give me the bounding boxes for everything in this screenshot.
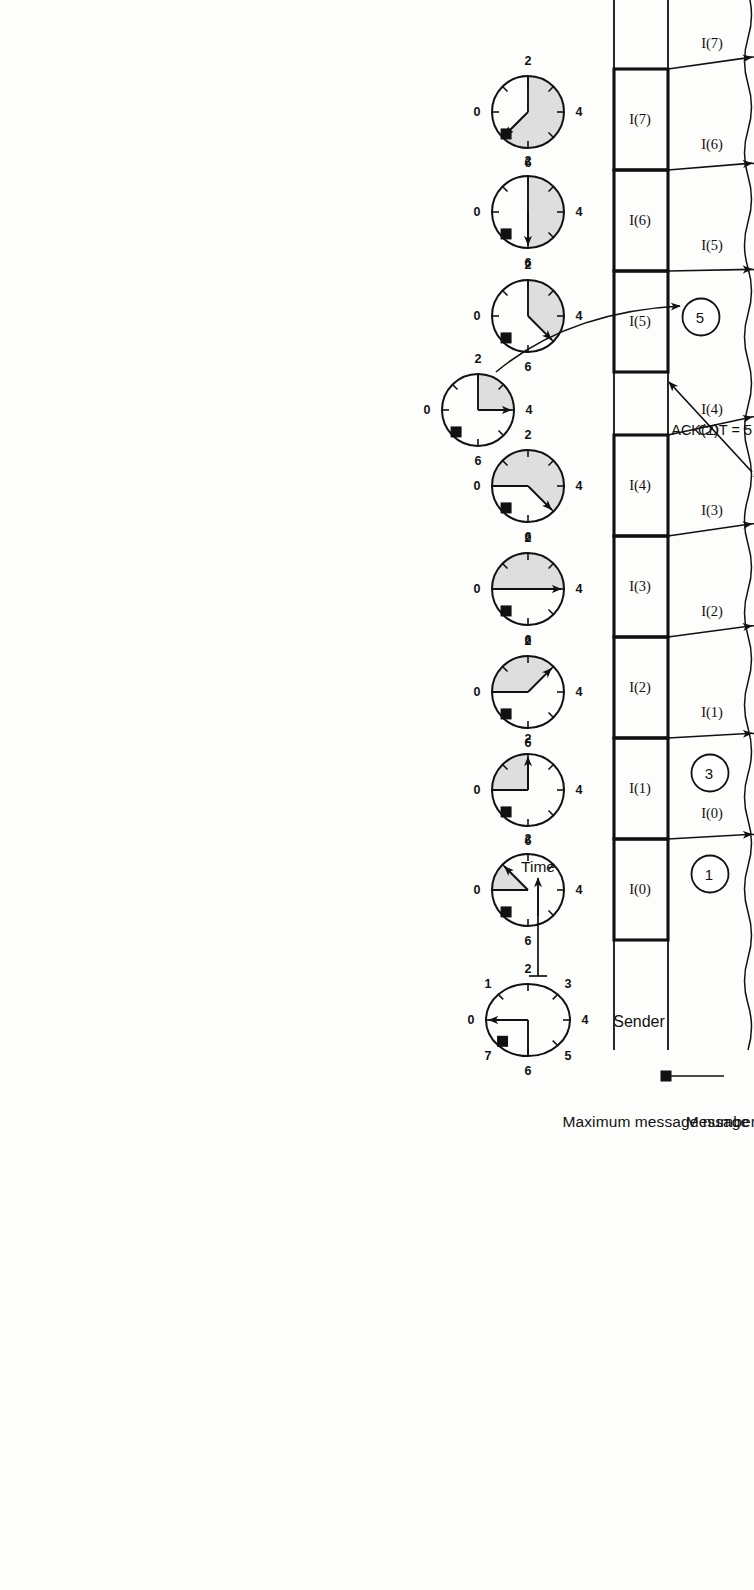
pdu-send-segment	[668, 834, 752, 839]
clock-tick-label: 0	[474, 479, 481, 493]
clock-tick-label: 4	[576, 309, 583, 323]
step-badge-label: 1	[705, 866, 713, 883]
sender-frame-label: I(3)	[629, 578, 651, 595]
clock-tick-label: 6	[525, 256, 532, 270]
sender-window-clock	[492, 450, 564, 522]
legend-clock-tick-label: 6	[525, 1064, 532, 1078]
clock-tick-label: 0	[474, 205, 481, 219]
clock-tick-label: 0	[424, 403, 431, 417]
sender-window-clock	[492, 553, 564, 625]
legend-item-label: Message number to be sent next	[686, 1113, 754, 1131]
clock-tick-label: 4	[576, 783, 583, 797]
pdu-label: I(4)	[701, 401, 723, 418]
pdu-label: I(3)	[701, 502, 723, 519]
pdu-send-segment	[668, 269, 752, 271]
clock-tick-label: 2	[475, 352, 482, 366]
clock-tick-label: 4	[576, 105, 583, 119]
clock-tick-label: 6	[525, 530, 532, 544]
legend-clock-tick-label: 1	[484, 977, 491, 991]
pdu-send-segment	[668, 163, 752, 170]
figure-artwork	[418, 0, 754, 1172]
legend-clock-tick-label: 5	[565, 1049, 572, 1063]
figure-stage: SenderReceiverI(0)I(1)I(2)I(3)I(4)I(5)I(…	[418, 0, 754, 1172]
clock-tick-label: 0	[474, 582, 481, 596]
step-badge-label: 3	[705, 765, 713, 782]
clock-tick-label: 6	[525, 736, 532, 750]
clock-tick-label: 6	[475, 454, 482, 468]
sender-frame-label: I(0)	[629, 881, 651, 898]
pdu-send-segment	[668, 626, 752, 637]
square-marker-icon	[661, 1071, 672, 1082]
sender-window-clock	[492, 754, 564, 826]
clock-tick-label: 6	[525, 633, 532, 647]
clock-tick-label: 6	[525, 834, 532, 848]
sender-window-clock	[442, 374, 514, 446]
sender-frame-label: I(2)	[629, 679, 651, 696]
clock-tick-label: 2	[525, 54, 532, 68]
figure-canvas: SenderReceiverI(0)I(1)I(2)I(3)I(4)I(5)I(…	[418, 0, 754, 1172]
pdu-send-segment	[668, 524, 752, 536]
sender-frame-label: I(6)	[629, 212, 651, 229]
pdu-label: I(7)	[701, 35, 723, 52]
pdu-label: I(6)	[701, 136, 723, 153]
sender-window-clock	[492, 76, 564, 148]
legend-clock-tick-label: 4	[582, 1013, 589, 1027]
pdu-send-segment	[668, 733, 752, 738]
time-axis-label: Time	[521, 858, 555, 876]
clock-tick-label: 6	[525, 934, 532, 948]
clock-tick-label: 4	[576, 685, 583, 699]
ack2-label-line2: CDT = 5	[698, 422, 752, 438]
clock-tick-label: 0	[474, 783, 481, 797]
pdu-label: I(0)	[701, 805, 723, 822]
clock-tick-label: 0	[474, 105, 481, 119]
clock-tick-label: 0	[474, 883, 481, 897]
clock-tick-label: 4	[576, 883, 583, 897]
sender-window-clock	[492, 176, 564, 248]
sender-frame-label: I(1)	[629, 780, 651, 797]
clock-tick-label: 6	[525, 360, 532, 374]
sender-frame-label: I(4)	[629, 477, 651, 494]
legend-clock	[486, 984, 570, 1056]
step-badge-label: 5	[696, 309, 704, 326]
clock-tick-label: 0	[474, 309, 481, 323]
clock-tick-label: 4	[526, 403, 533, 417]
clock-tick-label: 2	[525, 428, 532, 442]
legend-clock-tick-label: 7	[484, 1049, 491, 1063]
sender-window-clock	[492, 656, 564, 728]
legend-clock-tick-label: 3	[565, 977, 572, 991]
pdu-label: I(1)	[701, 704, 723, 721]
pdu-label: I(2)	[701, 603, 723, 620]
legend-clock-tick-label: 0	[468, 1013, 475, 1027]
legend-clock-tick-label: 2	[525, 962, 532, 976]
clock-tick-label: 0	[474, 685, 481, 699]
clock-tick-label: 4	[576, 582, 583, 596]
clock-tick-label: 4	[576, 205, 583, 219]
clock-tick-label: 4	[576, 479, 583, 493]
sender-frame-label: I(5)	[629, 313, 651, 330]
clock-tick-label: 6	[525, 156, 532, 170]
sender-window-clock	[492, 280, 564, 352]
sender-lane-label: Sender	[613, 1013, 665, 1031]
pdu-label: I(5)	[701, 237, 723, 254]
sender-frame-label: I(7)	[629, 111, 651, 128]
pdu-send-segment	[668, 57, 752, 69]
